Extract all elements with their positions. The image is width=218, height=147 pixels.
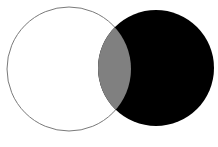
venn-diagram xyxy=(0,0,218,147)
